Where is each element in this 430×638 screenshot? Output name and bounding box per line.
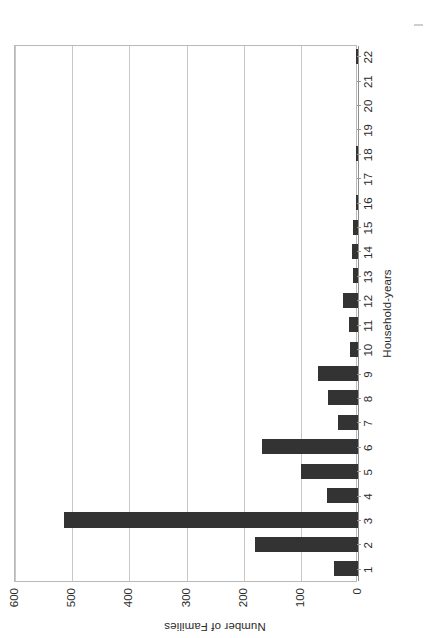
category-axis-tick <box>357 105 361 106</box>
category-axis-tick <box>357 276 361 277</box>
category-axis-tick-label: 1 <box>362 567 374 573</box>
value-axis-title: Number of Families <box>0 618 430 636</box>
category-axis-tick-label: 5 <box>362 469 374 475</box>
plot-area <box>14 45 357 582</box>
category-axis-tick-label: 2 <box>362 542 374 548</box>
bar-chart-figure: Number of Families 0100200300400500600 1… <box>0 0 430 638</box>
category-axis-tick-label: 15 <box>362 222 374 235</box>
bar <box>328 390 358 405</box>
category-axis-tick-label: 19 <box>362 124 374 137</box>
category-axis-tick <box>357 520 361 521</box>
value-axis-tick-labels: 0100200300400500600 <box>14 586 357 616</box>
category-axis-tick <box>357 544 361 545</box>
value-axis-tick-label: 200 <box>237 588 249 607</box>
bar <box>338 415 358 430</box>
category-axis-tick-label: 7 <box>362 420 374 426</box>
category-axis-tick <box>357 129 361 130</box>
category-axis-tick <box>357 300 361 301</box>
scanned-page: Number of Families 0100200300400500600 1… <box>0 0 430 638</box>
category-axis: 12345678910111213141516171819202122 <box>357 45 379 582</box>
bar <box>64 512 358 527</box>
category-axis-tick-label: 21 <box>362 75 374 88</box>
category-axis-tick-label: 4 <box>362 493 374 499</box>
value-axis-tick-label: 100 <box>294 588 306 607</box>
category-axis-tick-label: 16 <box>362 197 374 210</box>
bars <box>15 46 356 581</box>
category-axis-tick <box>357 496 361 497</box>
category-axis-tick-label: 8 <box>362 396 374 402</box>
category-axis-tick <box>357 81 361 82</box>
category-axis-tick-label: 10 <box>362 344 374 357</box>
category-axis-tick-label: 11 <box>362 320 374 332</box>
bar <box>334 561 358 576</box>
value-axis-tick-label: 0 <box>351 588 363 594</box>
category-axis-tick <box>357 178 361 179</box>
category-axis-tick <box>357 203 361 204</box>
category-axis-tick-label: 6 <box>362 445 374 451</box>
category-axis-tick <box>357 422 361 423</box>
category-axis-tick <box>357 398 361 399</box>
category-axis-tick-label: 20 <box>362 100 374 113</box>
category-axis-tick-label: 14 <box>362 246 374 259</box>
bar <box>262 439 358 454</box>
value-axis-tick-label: 500 <box>65 588 77 607</box>
bar <box>318 366 358 381</box>
value-axis-tick-label: 300 <box>180 588 192 607</box>
bar <box>343 293 358 308</box>
category-axis-tick-label: 12 <box>362 295 374 308</box>
bar <box>255 537 358 552</box>
category-axis-title: Household-years <box>381 45 393 582</box>
category-axis-tick <box>357 569 361 570</box>
category-axis-tick <box>357 56 361 57</box>
category-axis-tick <box>357 325 361 326</box>
category-axis-tick <box>357 154 361 155</box>
value-axis-tick-label: 400 <box>122 588 134 607</box>
category-axis-tick-label: 13 <box>362 270 374 283</box>
bar <box>327 488 358 503</box>
scan-artifact <box>414 24 423 26</box>
category-axis-tick <box>357 447 361 448</box>
bar <box>301 464 358 479</box>
category-axis-tick <box>357 471 361 472</box>
category-axis-tick-label: 9 <box>362 371 374 377</box>
category-axis-tick <box>357 374 361 375</box>
category-axis-tick <box>357 227 361 228</box>
category-axis-tick-label: 17 <box>362 173 374 186</box>
category-axis-tick-label: 3 <box>362 518 374 524</box>
category-axis-tick-label: 18 <box>362 148 374 161</box>
category-axis-tick <box>357 349 361 350</box>
category-axis-tick <box>357 251 361 252</box>
category-axis-tick-label: 22 <box>362 51 374 64</box>
value-axis-tick-label: 600 <box>8 588 20 607</box>
